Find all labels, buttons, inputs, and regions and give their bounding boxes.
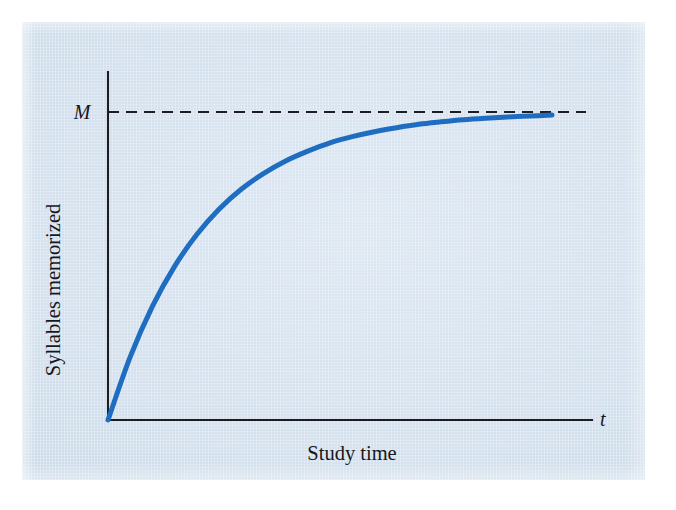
memorization-curve (108, 115, 552, 420)
x-axis-variable-label: t (600, 408, 606, 430)
figure-panel: M t Study time Syllables memorized (22, 22, 645, 480)
y-axis-label: Syllables memorized (42, 204, 65, 377)
chart-plot-area: M t Study time Syllables memorized (22, 22, 645, 480)
x-axis-label: Study time (307, 442, 396, 465)
figure-page: M t Study time Syllables memorized (0, 0, 676, 510)
asymptote-label-M: M (73, 101, 92, 123)
